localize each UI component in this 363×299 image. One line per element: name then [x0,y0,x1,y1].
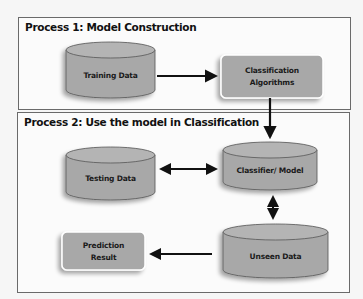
classification-label-line1: Classification [245,66,299,75]
prediction-label-line1: Prediction [83,241,124,250]
prediction-result-box [62,232,145,270]
diagram-canvas: Training Data Classification Algorithms … [0,0,363,299]
training-data-cylinder [66,42,155,98]
prediction-label-line2: Result [91,253,117,262]
unseen-data-cylinder [223,224,328,278]
classification-algorithms-box [221,55,323,98]
testing-data-label: Testing Data [85,174,136,183]
training-data-label: Training Data [83,71,137,80]
classifier-model-label: Classifier/ Model [237,166,304,175]
unseen-data-label: Unseen Data [250,252,302,261]
classification-label-line2: Algorithms [250,78,295,87]
